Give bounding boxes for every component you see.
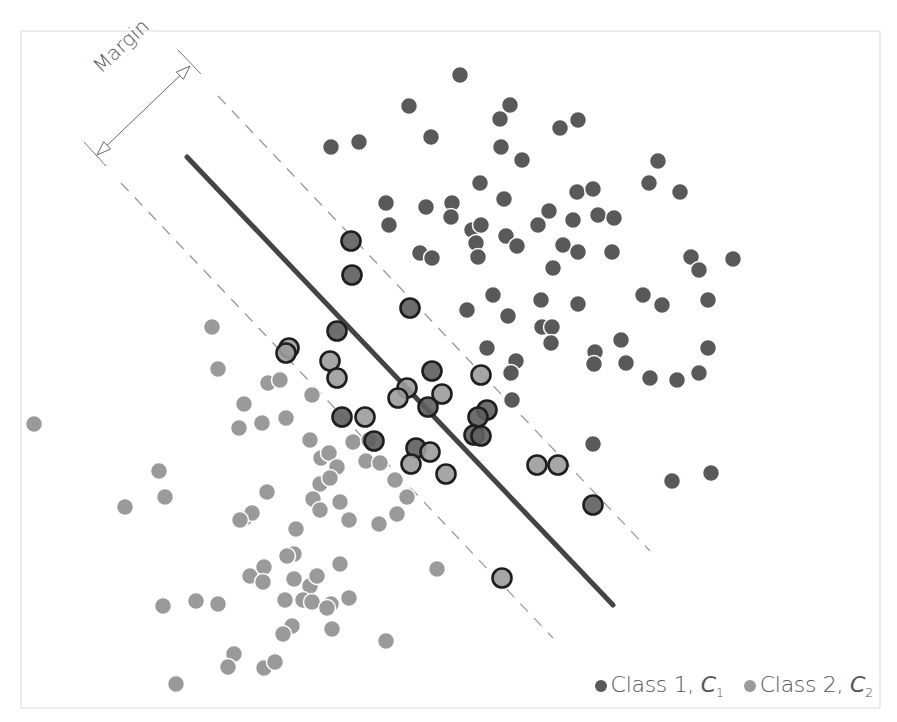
- class-1-point: [700, 340, 717, 357]
- class-2-point: [236, 396, 253, 413]
- class-1-point: [459, 302, 476, 319]
- svm-margin-chart: [0, 0, 897, 722]
- class-2-point: [210, 361, 227, 378]
- legend-item-class-2: Class 2, C2: [744, 672, 873, 700]
- class-2-dot-icon: [744, 680, 756, 692]
- class-1-point: [514, 152, 531, 169]
- class-1-point: [503, 365, 520, 382]
- class-1-point: [552, 120, 569, 137]
- class-1-dot-icon: [595, 680, 607, 692]
- class-2-point: [210, 596, 227, 613]
- class-1-point: [492, 111, 509, 128]
- support-vector-point: [437, 465, 456, 484]
- class-1-point: [700, 292, 717, 309]
- class-2-point: [332, 556, 349, 573]
- support-vector-point: [423, 362, 442, 381]
- support-vector-point: [402, 455, 421, 474]
- class-1-point: [496, 191, 513, 208]
- class-2-point: [322, 470, 339, 487]
- class-1-point: [479, 340, 496, 357]
- class-2-point: [288, 521, 305, 538]
- class-1-point: [565, 212, 582, 229]
- class-1-point: [381, 217, 398, 234]
- class-1-point: [585, 181, 602, 198]
- support-vector-point: [528, 456, 547, 475]
- class-1-point: [543, 335, 560, 352]
- class-1-point: [418, 199, 435, 216]
- class-1-point: [570, 296, 587, 313]
- class-2-point: [324, 621, 341, 638]
- class-2-point: [341, 512, 358, 529]
- class-1-point: [493, 139, 510, 156]
- support-vector-point: [328, 322, 347, 341]
- class-1-point: [533, 292, 550, 309]
- legend-label-class-2: Class 2, C2: [760, 672, 873, 700]
- class-2-point: [399, 489, 416, 506]
- class-2-point: [267, 654, 284, 671]
- class-2-point: [371, 516, 388, 533]
- class-1-point: [500, 308, 517, 325]
- class-1-point: [530, 217, 547, 234]
- class-2-point: [188, 593, 205, 610]
- class-1-point: [691, 365, 708, 382]
- class-1-point: [672, 184, 689, 201]
- class-2-point: [278, 410, 295, 427]
- class-1-point: [378, 195, 395, 212]
- class-1-point: [691, 262, 708, 279]
- support-vector-point: [277, 344, 296, 363]
- class-1-point: [703, 465, 720, 482]
- class-2-point: [259, 484, 276, 501]
- class-2-point: [304, 387, 321, 404]
- class-2-point: [117, 499, 134, 516]
- class-1-point: [669, 372, 686, 389]
- class-2-point: [151, 463, 168, 480]
- class-1-point: [570, 112, 587, 129]
- class-2-point: [309, 568, 326, 585]
- class-2-point: [275, 626, 292, 643]
- class-1-point: [509, 238, 526, 255]
- class-2-point: [255, 574, 272, 591]
- legend-label-class-1: Class 1, C1: [611, 672, 724, 700]
- class-1-point: [569, 184, 586, 201]
- class-2-point: [341, 590, 358, 607]
- support-vector-point: [549, 456, 568, 475]
- class-1-point: [641, 175, 658, 192]
- class-1-point: [470, 249, 487, 266]
- support-vector-point: [469, 408, 488, 427]
- class-2-point: [157, 489, 174, 506]
- support-vector-point: [365, 432, 384, 451]
- class-1-point: [424, 250, 441, 267]
- class-1-point: [323, 139, 340, 156]
- class-1-point: [570, 244, 587, 261]
- support-vector-point: [472, 366, 491, 385]
- class-1-point: [654, 297, 671, 314]
- class-2-point: [319, 600, 336, 617]
- class-2-point: [387, 472, 404, 489]
- support-vector-point: [421, 443, 440, 462]
- class-1-point: [544, 319, 561, 336]
- class-1-point: [485, 287, 502, 304]
- class-2-point: [168, 676, 185, 693]
- class-2-point: [429, 561, 446, 578]
- class-1-point: [613, 332, 630, 349]
- class-2-point: [254, 415, 271, 432]
- class-2-point: [372, 455, 389, 472]
- class-2-point: [204, 319, 221, 336]
- class-1-point: [650, 153, 667, 170]
- class-1-point: [725, 251, 742, 268]
- support-vector-point: [342, 232, 361, 251]
- class-1-point: [401, 98, 418, 115]
- class-1-point: [351, 134, 368, 151]
- support-vector-point: [333, 408, 352, 427]
- plot-frame: [21, 31, 880, 708]
- class-1-point: [618, 355, 635, 372]
- class-2-point: [232, 512, 249, 529]
- class-1-point: [452, 67, 469, 84]
- class-2-point: [231, 420, 248, 437]
- class-1-point: [472, 175, 489, 192]
- support-vector-point: [401, 299, 420, 318]
- support-vector-point: [472, 427, 491, 446]
- class-1-point: [590, 207, 607, 224]
- class-1-point: [473, 217, 490, 234]
- class-1-point: [504, 392, 521, 409]
